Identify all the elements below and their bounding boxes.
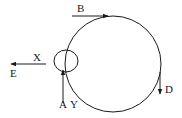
large-loop — [65, 16, 161, 112]
label-e: E — [10, 67, 17, 79]
label-x: X — [33, 51, 41, 63]
label-a: A — [59, 98, 67, 110]
label-d: D — [165, 83, 173, 95]
label-b: B — [77, 2, 84, 14]
label-y: Y — [70, 98, 78, 110]
path-diagram: B X E A Y D — [0, 0, 182, 118]
